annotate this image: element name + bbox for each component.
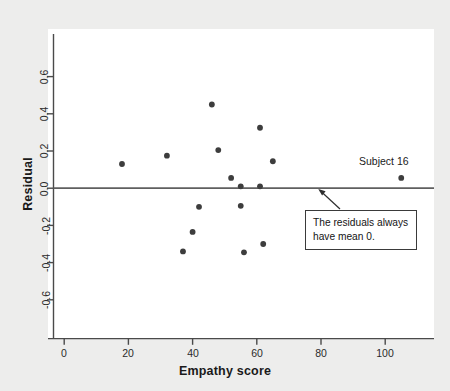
plot-canvas (0, 0, 450, 391)
data-point (119, 161, 125, 167)
x-tick-label-80: 80 (315, 347, 327, 359)
data-point (164, 153, 170, 159)
y-tick-label-0.0: 0.0 (38, 176, 50, 202)
data-point (260, 241, 266, 247)
data-point (196, 204, 202, 210)
y-tick-label-0.4: 0.4 (38, 101, 50, 127)
y-tick-label-neg0.2: -0.2 (40, 211, 52, 241)
callout-line-2: have mean 0. (313, 230, 410, 244)
data-point (180, 249, 186, 255)
mean-zero-callout-box: The residuals always have mean 0. (305, 210, 417, 250)
y-tick-label-neg0.4: -0.4 (40, 248, 52, 278)
x-tick-label-0: 0 (61, 347, 67, 359)
subject-16-annotation: Subject 16 (359, 155, 409, 167)
data-point (209, 102, 215, 108)
y-tick-label-neg0.6: -0.6 (40, 285, 52, 315)
x-tick-label-20: 20 (122, 347, 134, 359)
data-point (215, 147, 221, 153)
y-axis-title: Residual (21, 124, 35, 244)
x-tick-label-60: 60 (251, 347, 263, 359)
data-point (398, 175, 404, 181)
data-point (257, 125, 263, 131)
data-point (228, 175, 234, 181)
x-tick-label-40: 40 (187, 347, 199, 359)
x-axis-title: Empathy score (0, 364, 450, 378)
data-point (241, 249, 247, 255)
x-tick-label-100: 100 (376, 347, 394, 359)
y-tick-label-0.2: 0.2 (38, 138, 50, 164)
callout-line-1: The residuals always (313, 216, 410, 230)
data-point (257, 183, 263, 189)
y-tick-label-0.6: 0.6 (38, 64, 50, 90)
data-point (238, 183, 244, 189)
residual-scatter-figure: Empathy score Residual 0 20 40 60 80 100… (0, 0, 450, 391)
data-point (270, 158, 276, 164)
data-point (238, 203, 244, 209)
data-point (190, 229, 196, 235)
